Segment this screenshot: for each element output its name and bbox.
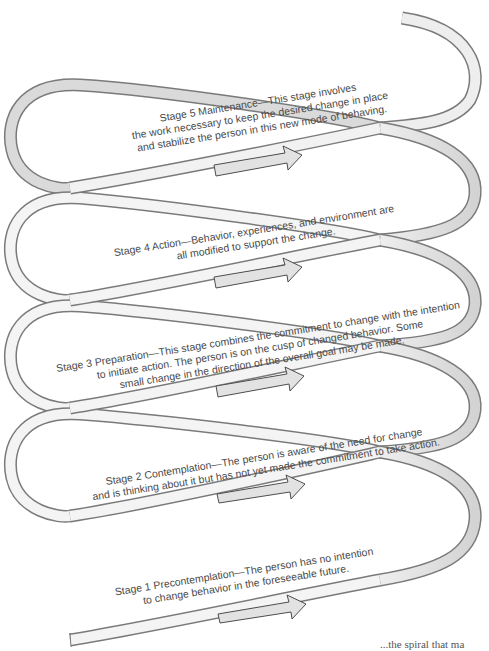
stages-of-change-diagram: Stage 5 Maintenance—This stage involves … [0, 0, 489, 651]
caption-fragment: ...the spiral that ma [380, 638, 464, 650]
